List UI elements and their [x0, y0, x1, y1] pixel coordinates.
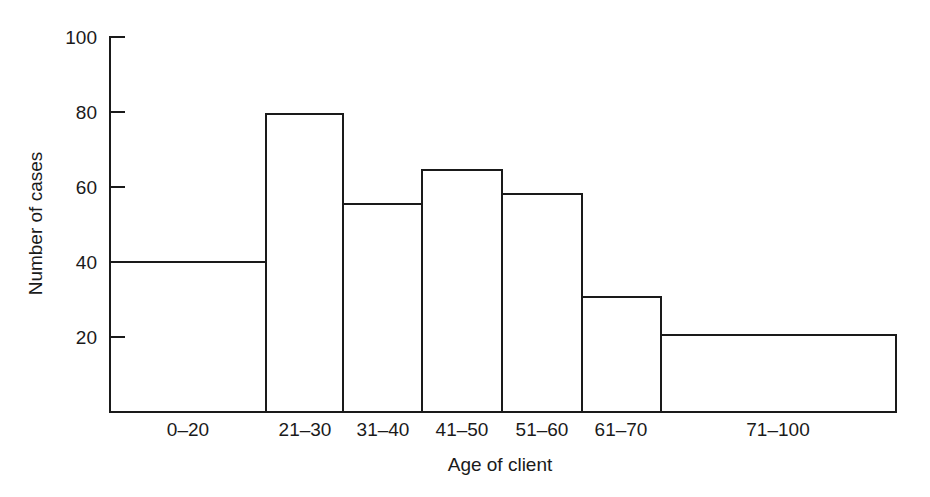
bar-41-50 — [422, 170, 502, 412]
y-axis-title: Number of cases — [26, 144, 45, 304]
y-tick-label-40: 40 — [76, 253, 97, 272]
bar-0-20 — [110, 262, 266, 412]
y-tick-label-60: 60 — [76, 178, 97, 197]
bar-21-30 — [266, 114, 343, 412]
bar-31-40 — [343, 204, 422, 412]
bar-51-60 — [502, 194, 582, 412]
y-tick-label-80: 80 — [76, 103, 97, 122]
bar-61-70 — [582, 297, 661, 412]
x-tick-label-71-100: 71–100 — [708, 420, 848, 439]
x-tick-label-0-20: 0–20 — [108, 420, 268, 439]
bar-71-100 — [661, 335, 896, 412]
x-tick-label-61-70: 61–70 — [561, 420, 681, 439]
x-axis-title: Age of client — [400, 455, 600, 474]
y-tick-label-20: 20 — [76, 328, 97, 347]
y-tick-label-100: 100 — [65, 28, 97, 47]
histogram-figure: 100 80 60 40 20 0–20 21–30 31–40 41–50 5… — [0, 0, 930, 497]
